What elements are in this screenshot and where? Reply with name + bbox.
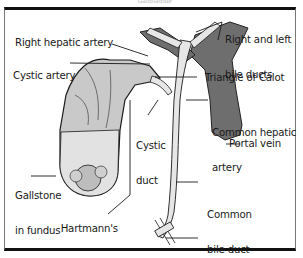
label-portal-vein: Portal vein <box>229 138 281 150</box>
label-right-hepatic-artery: Right hepatic artery <box>15 37 113 49</box>
label-cystic-duct: Cystic duct <box>136 117 166 198</box>
label-triangle-of-calot: Triangle of Calot <box>205 72 284 84</box>
label-cystic-artery: Cystic artery <box>13 70 75 82</box>
label-hartmanns-pouch: Hartmann's pouch (infundibulum <box>55 200 124 258</box>
cystic-duct-shape <box>150 76 172 95</box>
label-common-bile-duct: Common bile duct empties into Duodenum <box>207 186 262 258</box>
